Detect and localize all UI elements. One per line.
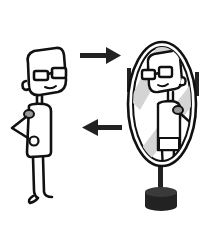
cartoon-figure-left <box>12 48 66 203</box>
left-leg <box>29 157 38 203</box>
reflection-hip <box>159 138 179 150</box>
mirror-base-top <box>145 187 177 197</box>
reflection-glasses-right <box>159 67 172 77</box>
reflection-glasses-left <box>142 70 155 79</box>
reflection-shoulder <box>173 106 183 114</box>
right-leg <box>43 157 52 197</box>
glasses-left-lens <box>34 71 48 80</box>
glasses-bridge <box>48 73 52 74</box>
reflection-glasses-bridge <box>155 73 159 74</box>
arrow-left <box>82 119 122 136</box>
mirror-reflection-illustration <box>0 0 211 227</box>
arrow-right <box>80 47 121 64</box>
hand <box>30 137 39 146</box>
neck <box>37 96 42 103</box>
arm <box>12 117 28 138</box>
glasses-right-lens <box>52 68 66 78</box>
standing-oval-mirror <box>127 40 200 211</box>
